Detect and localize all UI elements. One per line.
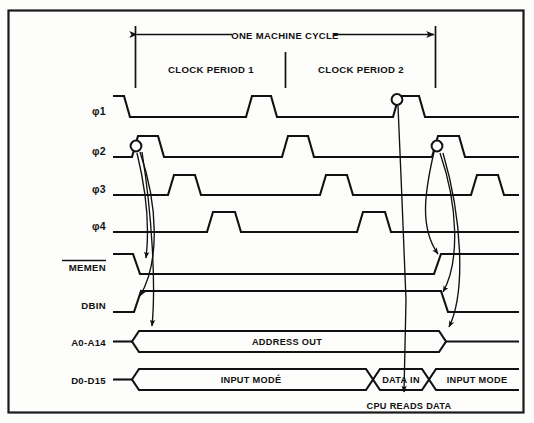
event-circle-phi2-rise-1: [131, 141, 142, 152]
signal-label-phi3: φ3: [92, 183, 106, 195]
machine-cycle-label: ONE MACHINE CYCLE: [231, 30, 339, 41]
timing-diagram-canvas: ONE MACHINE CYCLE CLOCK PERIOD 1 CLOCK P…: [0, 0, 534, 423]
bus-data-label-input-mode-1: INPUT MODÉ: [221, 374, 282, 385]
signal-label-address-bus: A0-A14: [71, 337, 106, 348]
cpu-reads-data-label: CPU READS DATA: [366, 401, 451, 411]
clock-period-2-label: CLOCK PERIOD 2: [318, 64, 404, 75]
signal-label-data-bus: D0-D15: [71, 375, 106, 386]
signal-label-memen-group: MEMEN: [62, 261, 106, 274]
signal-label-memen: MEMEN: [69, 262, 106, 273]
signal-label-dbin: DBIN: [81, 300, 106, 311]
clock-period-1-label: CLOCK PERIOD 1: [168, 64, 254, 75]
signal-label-phi4: φ4: [92, 220, 106, 232]
signal-label-phi2: φ2: [92, 145, 106, 157]
signal-label-phi1: φ1: [92, 105, 106, 117]
timing-diagram-figure: ONE MACHINE CYCLE CLOCK PERIOD 1 CLOCK P…: [0, 0, 534, 423]
event-circle-phi2-rise-2: [432, 141, 443, 152]
bus-data-label-data-in: DATA IN: [382, 375, 420, 385]
bus-data-label-input-mode-2: INPUT MODE: [447, 375, 508, 385]
bus-address-segment-label: ADDRESS OUT: [252, 337, 322, 347]
event-circle-phi1-rise-2: [392, 94, 403, 105]
